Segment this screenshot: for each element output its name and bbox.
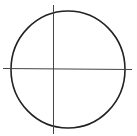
horizontal-axis-line — [3, 69, 132, 70]
circle-crosshair-diagram — [0, 0, 137, 136]
